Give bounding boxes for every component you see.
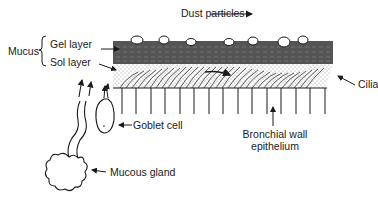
gel-layer-region	[113, 41, 333, 64]
mucous-gland-shape	[45, 153, 87, 190]
mucus-brace-icon	[39, 36, 46, 66]
mucus-label: Mucus	[8, 45, 39, 57]
bronchial-wall-label-line1: Bronchial wall	[240, 128, 310, 140]
dust-particles-label: Dust particles	[181, 7, 245, 19]
goblet-cell-shape	[96, 84, 114, 133]
goblet-cell-label: Goblet cell	[133, 119, 183, 131]
cilia-label: Cilia	[358, 78, 378, 90]
bronchial-wall-label-line2: epithelium	[240, 140, 310, 152]
mucous-gland-label: Mucous gland	[110, 166, 175, 178]
gel-layer-label: Gel layer	[50, 38, 92, 50]
bronchial-wall-label: Bronchial wall epithelium	[240, 128, 310, 152]
mucous-gland-duct	[68, 80, 91, 158]
bronchial-epithelium	[113, 88, 327, 114]
sol-layer-label: Sol layer	[50, 56, 91, 68]
